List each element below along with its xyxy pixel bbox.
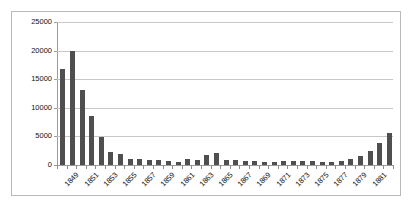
x-axis-tick-mark — [220, 165, 221, 169]
x-axis-tick-mark — [201, 165, 202, 169]
x-axis-tick-mark — [355, 165, 356, 169]
x-axis-tick-mark — [153, 165, 154, 169]
x-axis-tick-label: 1861 — [179, 171, 196, 188]
x-axis-tick-mark — [345, 165, 346, 169]
y-axis-tick-mark — [54, 51, 57, 52]
x-axis-tick-mark — [374, 165, 375, 169]
x-axis-tick-mark — [105, 165, 106, 169]
x-axis-tick-mark — [335, 165, 336, 169]
y-axis-tick-label: 5000 — [35, 133, 52, 141]
x-axis-tick-mark — [307, 165, 308, 169]
x-axis-tick-mark — [393, 165, 394, 169]
x-axis-tick-label: 1857 — [140, 171, 157, 188]
x-axis-tick-mark — [115, 165, 116, 169]
x-axis-tick-mark — [364, 165, 365, 169]
x-axis-tick-mark — [124, 165, 125, 169]
y-axis-tick-mark — [54, 108, 57, 109]
x-axis-tick-mark — [297, 165, 298, 169]
bar — [60, 69, 65, 165]
plot-area: 0500010000150002000025000 — [57, 22, 393, 165]
x-axis-tick-mark — [278, 165, 279, 169]
bar — [368, 151, 373, 165]
y-axis-tick-mark — [54, 136, 57, 137]
y-axis-tick-label: 15000 — [31, 75, 52, 83]
x-axis-tick-mark — [268, 165, 269, 169]
x-axis-tick-label: 1855 — [121, 171, 138, 188]
bar — [80, 90, 85, 166]
y-axis-tick-label: 20000 — [31, 47, 52, 55]
x-axis-tick-mark — [182, 165, 183, 169]
x-axis-tick-mark — [163, 165, 164, 169]
bar — [99, 137, 104, 165]
bar — [108, 152, 113, 165]
x-axis-tick-label: 1867 — [236, 171, 253, 188]
bar — [204, 155, 209, 165]
y-axis-tick-mark — [54, 79, 57, 80]
x-axis-tick-label: 1863 — [198, 171, 215, 188]
x-axis-tick-label: 1877 — [332, 171, 349, 188]
x-axis-tick-label: 1879 — [352, 171, 369, 188]
x-axis-tick-mark — [383, 165, 384, 169]
chart-frame: 0500010000150002000025000 18491851185318… — [11, 11, 401, 196]
x-axis-tick-mark — [211, 165, 212, 169]
x-axis-tick-label: 1875 — [313, 171, 330, 188]
bar — [89, 116, 94, 165]
x-axis-tick-mark — [143, 165, 144, 169]
x-axis-tick-mark — [259, 165, 260, 169]
x-axis-tick-label: 1859 — [160, 171, 177, 188]
x-axis-tick-label: 1865 — [217, 171, 234, 188]
x-axis-tick-label: 1849 — [64, 171, 81, 188]
x-axis-tick-mark — [86, 165, 87, 169]
x-axis-tick-mark — [172, 165, 173, 169]
x-axis-tick-mark — [230, 165, 231, 169]
y-axis-tick-label: 10000 — [31, 104, 52, 112]
x-axis-tick-mark — [95, 165, 96, 169]
y-axis-tick-label: 25000 — [31, 18, 52, 26]
bar — [118, 154, 123, 165]
x-axis-tick-mark — [239, 165, 240, 169]
y-axis-tick-mark — [54, 22, 57, 23]
bar — [70, 51, 75, 165]
x-axis: 1849185118531855185718591861186318651867… — [57, 165, 393, 175]
y-axis-tick-label: 0 — [48, 161, 52, 169]
x-axis-tick-mark — [316, 165, 317, 169]
x-axis-tick-mark — [76, 165, 77, 169]
x-axis-tick-mark — [57, 165, 58, 169]
bar — [377, 143, 382, 165]
x-axis-tick-mark — [287, 165, 288, 169]
bar — [358, 156, 363, 165]
x-axis-tick-label: 1853 — [102, 171, 119, 188]
x-axis-tick-label: 1871 — [275, 171, 292, 188]
x-axis-tick-mark — [67, 165, 68, 169]
x-axis-tick-mark — [191, 165, 192, 169]
x-axis-tick-mark — [326, 165, 327, 169]
bar — [387, 133, 392, 165]
x-axis-tick-label: 1851 — [83, 171, 100, 188]
x-axis-tick-label: 1873 — [294, 171, 311, 188]
x-axis-tick-label: 1869 — [256, 171, 273, 188]
x-axis-tick-label: 1881 — [371, 171, 388, 188]
x-axis-tick-mark — [134, 165, 135, 169]
x-axis-tick-mark — [249, 165, 250, 169]
bar — [214, 153, 219, 165]
bar-series — [58, 22, 393, 165]
